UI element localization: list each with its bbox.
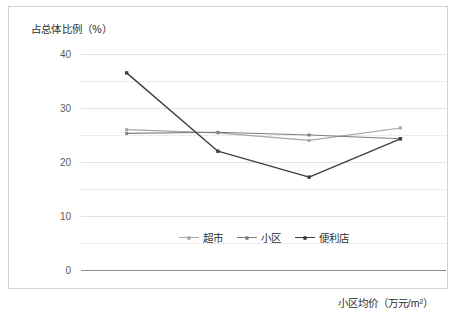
series-line-2 — [127, 73, 401, 177]
data-point-0-2 — [308, 139, 311, 142]
y-tick-label-30: 30 — [60, 103, 71, 114]
data-point-2-2 — [307, 175, 310, 178]
data-point-2-0 — [125, 71, 128, 74]
data-point-1-0 — [125, 132, 128, 135]
data-point-1-2 — [308, 134, 311, 137]
legend-label-2: 便利店 — [319, 230, 349, 245]
chart-card: 占总体比例（%） 40 30 20 10 0 — [8, 6, 448, 289]
legend-dot-2 — [303, 236, 307, 240]
data-point-2-1 — [216, 150, 219, 153]
chart-legend: 超市 小区 便利店 — [81, 230, 446, 245]
y-tick-label-20: 20 — [60, 157, 71, 168]
legend-item-1[interactable]: 小区 — [237, 230, 281, 245]
axis-baseline — [81, 270, 446, 271]
data-point-0-0 — [125, 128, 128, 131]
data-point-2-3 — [399, 137, 402, 140]
y-tick-label-40: 40 — [60, 49, 71, 60]
legend-swatch-icon-0 — [179, 233, 199, 243]
legend-dot-1 — [245, 236, 249, 240]
legend-label-0: 超市 — [203, 230, 223, 245]
y-tick-label-10: 10 — [60, 211, 71, 222]
legend-item-0[interactable]: 超市 — [179, 230, 223, 245]
y-axis-tick-labels: 40 30 20 10 0 — [9, 54, 75, 270]
chart-figure: 占总体比例（%） 40 30 20 10 0 — [0, 0, 457, 316]
legend-swatch-icon-2 — [295, 233, 315, 243]
data-point-1-1 — [216, 131, 219, 134]
legend-swatch-icon-1 — [237, 233, 257, 243]
y-axis-title: 占总体比例（%） — [31, 21, 112, 36]
legend-label-1: 小区 — [261, 230, 281, 245]
plot-area: 超市 小区 便利店 >6 4.5~6 — [81, 54, 446, 270]
legend-dot-0 — [187, 236, 191, 240]
data-point-0-3 — [399, 126, 402, 129]
figure-caption — [0, 296, 457, 316]
legend-item-2[interactable]: 便利店 — [295, 230, 349, 245]
y-tick-label-0: 0 — [65, 265, 71, 276]
